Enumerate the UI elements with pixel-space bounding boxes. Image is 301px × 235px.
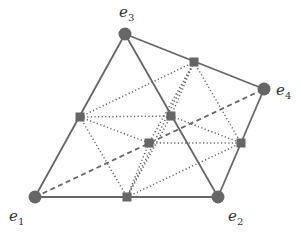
dotted-edge-m34-m14 [149,62,194,143]
tetrahedral-subdivision-diagram: e1e2e3e4 [0,0,301,235]
vertex-label-subscript: 2 [237,216,243,227]
vertex-label-e2: e2 [228,207,243,227]
dotted-edge-m13-m34 [80,62,194,117]
vertex-node-e3 [119,28,132,41]
dotted-edge-m34-m12 [127,62,194,197]
dotted-edge-m13-m14 [80,117,149,143]
vertex-label-e4: e4 [276,81,291,101]
midpoint-node-m12 [123,193,132,202]
vertex-label-subscript: 3 [128,12,134,23]
dotted-edges [80,62,241,197]
dotted-edge-m34-m32 [171,62,194,116]
vertex-node-e2 [212,191,225,204]
vertex-node-e4 [258,83,271,96]
midpoint-node-m42 [237,139,246,148]
dotted-edge-m32-m42 [171,116,241,143]
vertex-label-e3: e3 [119,3,134,23]
vertex-node-e1 [29,191,42,204]
vertex-label-subscript: 1 [18,216,24,227]
midpoint-node-m14 [145,139,154,148]
dotted-edge-m34-m42 [194,62,241,143]
vertex-label-e1: e1 [9,207,24,227]
dotted-edge-m13-m32 [80,116,171,117]
dotted-edge-m12-m42 [127,143,241,197]
vertex-labels: e1e2e3e4 [9,3,291,227]
vertex-label-subscript: 4 [285,90,291,101]
midpoint-node-m32 [167,112,176,121]
midpoint-node-m13 [76,113,85,122]
midpoint-node-m34 [190,58,199,67]
